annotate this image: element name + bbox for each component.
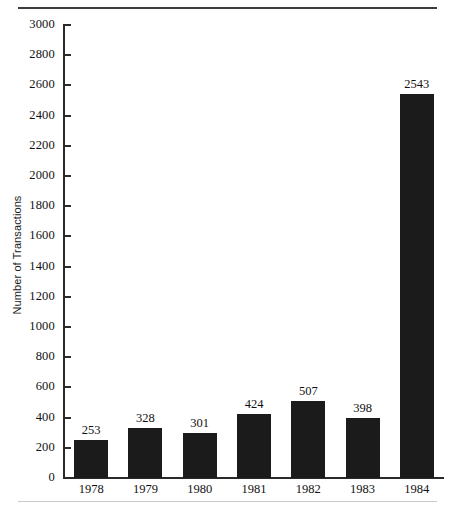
y-axis-tick — [65, 296, 71, 298]
y-axis-tick-label: 1800 — [11, 199, 55, 211]
x-axis-tick-label: 1984 — [387, 483, 447, 496]
y-axis-tick-label: 0 — [11, 471, 55, 483]
top-divider-rule — [18, 7, 437, 9]
bottom-divider-rule — [18, 501, 437, 502]
y-axis-tick — [65, 356, 71, 358]
y-axis-tick — [65, 417, 71, 419]
x-axis-tick-label: 1980 — [170, 483, 230, 496]
y-axis-tick-label: 2400 — [11, 109, 55, 121]
bar-value-label: 301 — [170, 417, 230, 430]
x-axis-tick-label: 1981 — [224, 483, 284, 496]
y-axis-tick-label: 2800 — [11, 48, 55, 60]
y-axis-tick-label: 1000 — [11, 320, 55, 332]
y-axis-tick — [65, 326, 71, 328]
y-axis-tick — [65, 84, 71, 86]
y-axis-tick — [65, 447, 71, 449]
bar-value-label: 424 — [224, 398, 284, 411]
x-axis-tick-label: 1978 — [61, 483, 121, 496]
y-axis-line — [63, 24, 65, 479]
bar — [183, 433, 217, 478]
y-axis-tick — [65, 24, 71, 26]
y-axis-tick — [65, 54, 71, 56]
x-axis-tick-label: 1979 — [115, 483, 175, 496]
x-axis-tick-label: 1982 — [278, 483, 338, 496]
bar-value-label: 2543 — [387, 78, 447, 91]
bar-value-label: 507 — [278, 385, 338, 398]
bar — [291, 401, 325, 478]
bar-value-label: 253 — [61, 424, 121, 437]
x-axis-tick-label: 1983 — [333, 483, 393, 496]
y-axis-tick — [65, 145, 71, 147]
y-axis-tick-label: 600 — [11, 380, 55, 392]
bar-value-label: 328 — [115, 412, 175, 425]
bar — [128, 428, 162, 478]
y-axis-tick-label: 800 — [11, 350, 55, 362]
y-axis-tick — [65, 235, 71, 237]
bar — [346, 418, 380, 478]
bar-chart-figure: Number of Transactions 30002800260024002… — [0, 0, 455, 509]
bar-value-label: 398 — [333, 402, 393, 415]
bar — [400, 94, 434, 478]
y-axis-tick-label: 400 — [11, 411, 55, 423]
y-axis-tick-label: 200 — [11, 441, 55, 453]
y-axis-tick-label: 2600 — [11, 78, 55, 90]
y-axis-tick — [65, 205, 71, 207]
y-axis-tick-label: 1600 — [11, 229, 55, 241]
bar — [237, 414, 271, 478]
y-axis-tick — [65, 386, 71, 388]
y-axis-tick — [65, 477, 71, 479]
y-axis-tick — [65, 175, 71, 177]
y-axis-tick-label: 2200 — [11, 139, 55, 151]
bar — [74, 440, 108, 478]
y-axis-tick-label: 1400 — [11, 260, 55, 272]
y-axis-tick — [65, 266, 71, 268]
y-axis-tick-label: 1200 — [11, 290, 55, 302]
y-axis-tick-label: 3000 — [11, 18, 55, 30]
y-axis-tick-label: 2000 — [11, 169, 55, 181]
y-axis-tick — [65, 115, 71, 117]
